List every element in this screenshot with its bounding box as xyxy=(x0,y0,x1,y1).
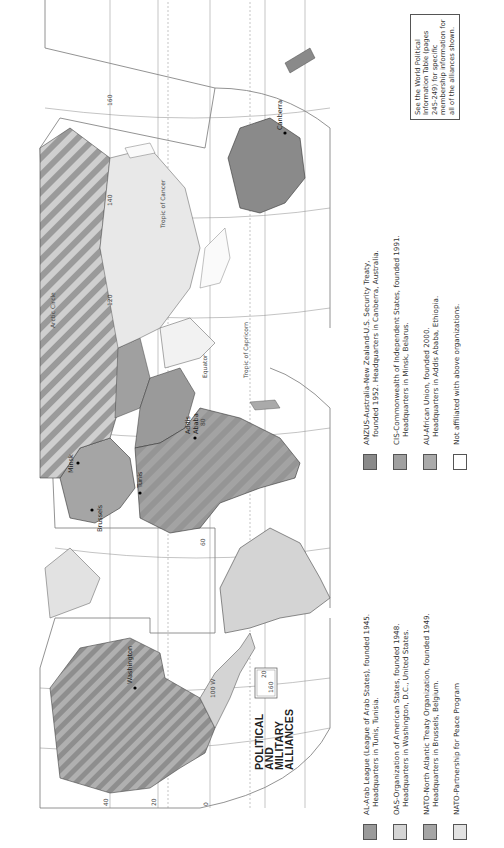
legend-item-african-union: AU-African Union, founded 2000.Headquart… xyxy=(422,296,440,470)
legend-item-arab-league: AL-Arab League (League of Arab States), … xyxy=(362,614,380,840)
swatch-partnership-for-peace xyxy=(453,824,467,840)
legend-item-partnership-for-peace: NATO-Partnership for Peace Program xyxy=(452,683,467,840)
membership-note: See the World Political Information Tabl… xyxy=(410,14,460,120)
southeast-asia xyxy=(200,228,230,288)
swatch-not-affiliated xyxy=(453,454,467,470)
grid-label-20: 20 xyxy=(150,798,157,806)
grid-label-160: 160 xyxy=(106,94,113,106)
longitude-100w-label: 100 W xyxy=(209,679,216,698)
grid-label-120: 120 xyxy=(106,294,113,306)
swatch-anzus xyxy=(363,454,377,470)
swatch-nato xyxy=(423,824,437,840)
atlas-page: 160 20 Washington Brussels Tunis Minsk A… xyxy=(0,0,504,848)
south-america xyxy=(220,528,330,633)
grid-label-0: 0 xyxy=(202,802,209,806)
svg-text:Minsk: Minsk xyxy=(67,454,75,473)
svg-text:Addis: Addis xyxy=(184,416,192,434)
grid-label-40: 40 xyxy=(102,798,109,806)
new-zealand xyxy=(285,48,315,73)
swatch-african-union xyxy=(423,454,437,470)
world-alliances-map: 160 20 Washington Brussels Tunis Minsk A… xyxy=(0,0,360,848)
svg-text:Tunis: Tunis xyxy=(136,471,144,489)
greenland xyxy=(45,548,100,618)
equator-label: Equator xyxy=(201,354,209,378)
swatch-oas xyxy=(393,824,407,840)
arctic-circle-label: Arctic Circle xyxy=(49,292,56,328)
swatch-arab-league xyxy=(363,824,377,840)
grid-label-140: 140 xyxy=(106,194,113,206)
tropic-capricorn-label: Tropic of Capricorn xyxy=(242,322,250,379)
svg-text:Brussels: Brussels xyxy=(96,504,104,532)
inset-box: 160 20 xyxy=(255,668,277,698)
tropic-cancer-label: Tropic of Cancer xyxy=(159,179,167,229)
grid-label-80: 80 xyxy=(199,418,206,426)
legend-item-cis: CIS-Commonwealth of Independent States, … xyxy=(392,235,410,470)
grid-label-60: 60 xyxy=(199,538,206,546)
map-legend: AL-Arab League (League of Arab States), … xyxy=(330,0,500,848)
svg-text:Canberra: Canberra xyxy=(276,100,284,130)
legend-item-not-affiliated: Not affiliated with above organizations. xyxy=(452,304,467,470)
legend-item-oas: OAS-Organization of American States, fou… xyxy=(392,623,410,840)
madagascar xyxy=(250,400,280,410)
swatch-cis xyxy=(393,454,407,470)
svg-text:160: 160 xyxy=(267,681,274,693)
australia xyxy=(228,118,305,213)
svg-text:20: 20 xyxy=(260,670,267,678)
legend-item-anzus: ANZUS-Australia-New Zealand-U.S. Securit… xyxy=(362,250,380,470)
svg-text:Washington: Washington xyxy=(126,646,134,684)
legend-item-nato: NATO-North Atlantic Treaty Organization,… xyxy=(422,613,440,840)
map-title: POLITICAL AND MILITARY ALLIANCES xyxy=(254,709,294,770)
